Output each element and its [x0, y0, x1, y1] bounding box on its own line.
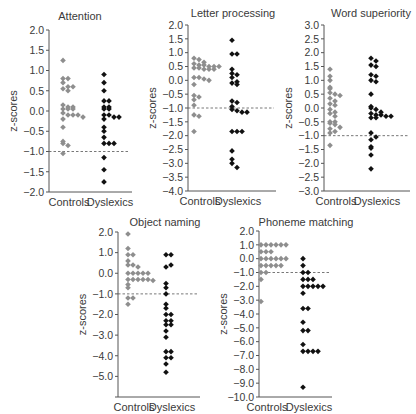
data-point-controls: [65, 88, 71, 94]
data-point-controls: [263, 270, 269, 276]
data-point-dyslexics: [168, 322, 174, 328]
y-tick-label: 2.0: [29, 24, 44, 36]
data-point-dyslexics: [163, 369, 169, 375]
data-point-controls: [191, 97, 197, 103]
panel-object-naming: Object naming2.01.00.0−1.0−2.0−3.0−4.0−5…: [76, 216, 200, 413]
data-point-controls: [125, 231, 131, 237]
y-tick-label: −7.0: [233, 349, 254, 361]
figure-panel-grid: Attention2.01.51.00.50.0−0.5−1.0−1.5−2.0…: [0, 0, 416, 414]
data-point-dyslexics: [101, 155, 107, 161]
scatter-figure: Attention2.01.51.00.50.0−0.5−1.0−1.5−2.0…: [0, 0, 416, 414]
series-dyslexics: [229, 37, 250, 170]
data-point-dyslexics: [163, 355, 169, 361]
data-point-dyslexics: [234, 129, 240, 135]
data-point-controls: [337, 125, 343, 131]
data-point-controls: [135, 264, 141, 270]
data-point-dyslexics: [368, 91, 374, 97]
y-tick-label: 0.5: [29, 85, 44, 97]
data-point-dyslexics: [101, 98, 107, 104]
data-point-controls: [263, 242, 269, 248]
data-point-controls: [125, 246, 131, 252]
data-point-controls: [191, 82, 197, 88]
data-point-dyslexics: [310, 284, 316, 290]
data-point-dyslexics: [116, 114, 122, 120]
data-point-dyslexics: [239, 129, 245, 135]
data-point-dyslexics: [388, 114, 394, 120]
data-point-dyslexics: [300, 320, 306, 326]
data-point-dyslexics: [234, 51, 240, 57]
data-point-dyslexics: [305, 328, 311, 334]
series-controls: [191, 55, 222, 134]
x-category-label-dyslexics: Dyslexics: [149, 401, 196, 413]
y-tick-label: 2.0: [168, 19, 183, 31]
data-point-controls: [327, 90, 333, 96]
data-point-dyslexics: [300, 277, 306, 283]
y-tick-label: 1.5: [304, 60, 319, 72]
y-tick-label: −3.0: [233, 294, 254, 306]
data-point-dyslexics: [163, 361, 169, 367]
data-point-controls: [332, 129, 338, 135]
series-dyslexics: [300, 256, 326, 390]
y-tick-label: −1.0: [92, 288, 113, 300]
y-tick-label: −2.5: [162, 143, 183, 155]
data-point-dyslexics: [106, 98, 112, 104]
data-point-dyslexics: [383, 114, 389, 120]
y-tick-label: −5.0: [92, 370, 113, 382]
panel-title: Letter processing: [191, 7, 275, 19]
data-point-dyslexics: [310, 277, 316, 283]
y-tick-label: −3.0: [162, 157, 183, 169]
data-point-controls: [65, 112, 71, 118]
data-point-dyslexics: [373, 107, 379, 113]
data-point-controls: [191, 129, 197, 135]
y-tick-label: 2.0: [239, 225, 254, 237]
data-point-dyslexics: [229, 148, 235, 154]
data-point-dyslexics: [300, 270, 306, 276]
data-point-controls: [125, 301, 131, 307]
y-tick-label: 2.0: [98, 226, 113, 238]
data-point-controls: [327, 96, 333, 102]
y-tick-label: 1.0: [168, 46, 183, 58]
panel-attention: Attention2.01.51.00.50.0−0.5−1.0−1.5−2.0…: [7, 10, 134, 208]
data-point-dyslexics: [168, 262, 174, 268]
data-point-controls: [196, 94, 202, 100]
data-point-dyslexics: [368, 137, 374, 143]
y-tick-label: 0.5: [168, 60, 183, 72]
data-point-controls: [273, 242, 279, 248]
data-point-controls: [268, 242, 274, 248]
data-point-dyslexics: [368, 62, 374, 68]
x-category-label-dyslexics: Dyslexics: [354, 195, 401, 207]
data-point-dyslexics: [163, 291, 169, 297]
data-point-controls: [283, 256, 289, 262]
data-point-dyslexics: [101, 179, 107, 185]
data-point-dyslexics: [106, 112, 112, 118]
data-point-dyslexics: [305, 306, 311, 312]
y-tick-label: 2.5: [304, 33, 319, 45]
data-point-dyslexics: [368, 152, 374, 158]
y-tick-label: 1.5: [168, 33, 183, 45]
data-point-controls: [196, 114, 202, 120]
data-point-controls: [60, 116, 66, 122]
data-point-controls: [191, 65, 197, 71]
data-point-dyslexics: [320, 284, 326, 290]
data-point-dyslexics: [300, 263, 306, 269]
y-tick-label: 1.0: [29, 64, 44, 76]
data-point-controls: [150, 278, 156, 284]
data-point-controls: [65, 143, 71, 149]
data-point-controls: [278, 256, 284, 262]
y-tick-label: −2.0: [162, 129, 183, 141]
data-point-dyslexics: [373, 64, 379, 70]
data-point-dyslexics: [229, 161, 235, 167]
data-point-dyslexics: [229, 51, 235, 57]
data-point-controls: [332, 102, 338, 108]
y-tick-label: −6.0: [233, 335, 254, 347]
data-point-controls: [268, 256, 274, 262]
data-point-dyslexics: [373, 79, 379, 85]
x-category-label-dyslexics: Dyslexics: [87, 196, 134, 208]
x-category-label-dyslexics: Dyslexics: [286, 401, 333, 413]
data-point-dyslexics: [300, 306, 306, 312]
x-category-label-controls: Controls: [316, 195, 357, 207]
data-point-controls: [60, 80, 66, 86]
data-point-controls: [327, 143, 333, 149]
series-dyslexics: [101, 72, 122, 185]
data-point-controls: [135, 270, 141, 276]
